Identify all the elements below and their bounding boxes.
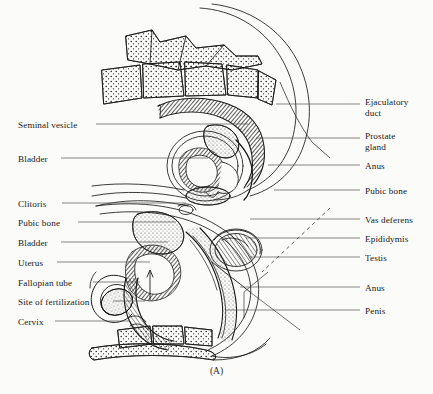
figure-caption: (A) [0, 366, 433, 376]
label-fallopian-tube: Fallopian tube [18, 278, 72, 289]
clitoris [178, 204, 196, 215]
testis [210, 229, 262, 271]
vas-deferens-dashed-leader [262, 208, 330, 272]
label-vas-deferens: Vas deferens [365, 215, 413, 226]
label-testis: Testis [365, 253, 387, 264]
label-prostate-gland: Prostate gland [365, 131, 395, 152]
anatomy-drawing [0, 0, 433, 394]
label-bladder: Bladder [18, 238, 48, 249]
label-penis: Penis [365, 306, 385, 317]
label-anus: Anus [365, 161, 385, 172]
label-seminal-vesicle: Seminal vesicle [18, 120, 77, 131]
bulbourethral-region [186, 187, 230, 205]
label-clitoris: Clitoris [18, 199, 46, 210]
label-bladder: Bladder [18, 154, 48, 165]
leader-diagonals [244, 82, 330, 330]
label-anus: Anus [365, 283, 385, 294]
label-pubic-bone: Pubic bone [18, 218, 60, 229]
label-ejaculatory-duct: Ejaculatory duct [365, 97, 408, 118]
label-cervix: Cervix [18, 317, 44, 328]
label-pubic-bone: Pubic bone [365, 186, 407, 197]
label-site-of-fertilization: Site of fertilization [18, 297, 90, 308]
anatomical-figure: Seminal vesicleBladderClitorisPubic bone… [0, 0, 433, 394]
label-uterus: Uterus [18, 258, 43, 269]
vertebral-column-upper [102, 30, 276, 105]
label-epididymis: Epididymis [365, 234, 408, 245]
